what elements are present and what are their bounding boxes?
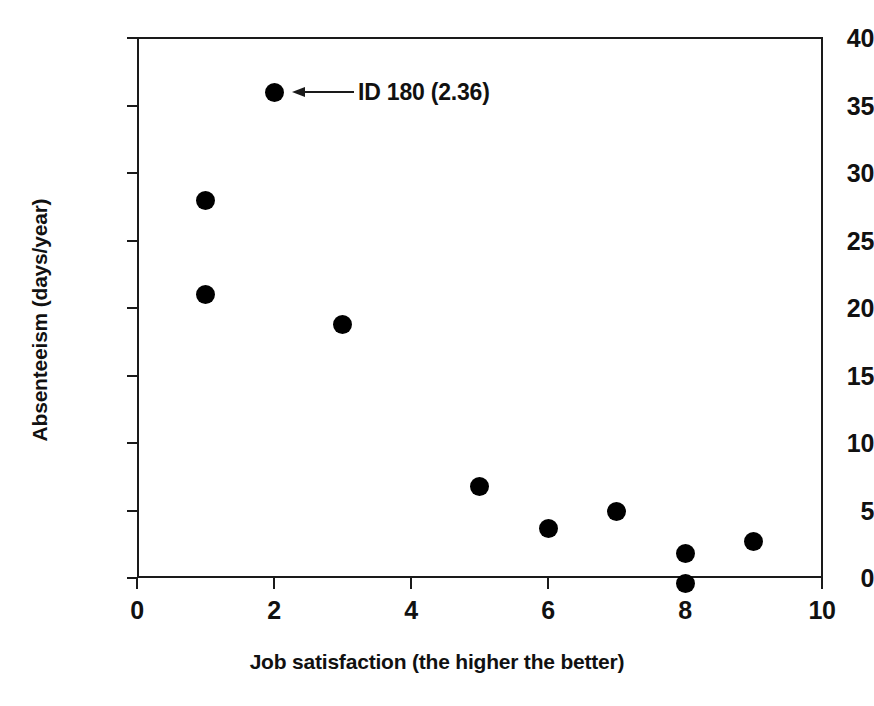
x-tick-mark bbox=[273, 578, 275, 589]
x-tick-mark bbox=[821, 578, 823, 589]
x-tick-label: 4 bbox=[371, 596, 451, 625]
scatter-chart-figure: 0510152025303540 0246810 ID 180 (2.36) J… bbox=[0, 0, 874, 706]
y-tick-label: 40 bbox=[764, 24, 874, 53]
y-tick-label: 30 bbox=[764, 159, 874, 188]
data-point bbox=[196, 191, 215, 210]
annotation-label: ID 180 (2.36) bbox=[358, 79, 490, 106]
x-tick-label: 8 bbox=[645, 596, 725, 625]
y-axis-title: Absenteeism (days/year) bbox=[28, 110, 52, 530]
x-tick-label: 6 bbox=[508, 596, 588, 625]
y-tick-label: 20 bbox=[764, 294, 874, 323]
y-tick-label: 35 bbox=[764, 91, 874, 120]
data-point bbox=[196, 285, 215, 304]
y-tick-mark bbox=[127, 172, 138, 174]
x-tick-mark bbox=[410, 578, 412, 589]
y-tick-label: 15 bbox=[764, 361, 874, 390]
data-point bbox=[333, 315, 352, 334]
data-point bbox=[470, 477, 489, 496]
y-tick-mark bbox=[127, 240, 138, 242]
x-tick-label: 0 bbox=[97, 596, 177, 625]
y-tick-mark bbox=[127, 105, 138, 107]
y-tick-mark bbox=[127, 375, 138, 377]
y-tick-mark bbox=[127, 442, 138, 444]
data-point bbox=[676, 574, 695, 593]
y-tick-label: 25 bbox=[764, 226, 874, 255]
data-point bbox=[744, 532, 763, 551]
y-tick-label: 10 bbox=[764, 429, 874, 458]
y-tick-mark bbox=[127, 510, 138, 512]
y-tick-label: 5 bbox=[764, 496, 874, 525]
plot-top-border bbox=[137, 37, 823, 39]
y-tick-label: 0 bbox=[764, 564, 874, 593]
data-point bbox=[676, 544, 695, 563]
x-tick-mark bbox=[136, 578, 138, 589]
x-tick-label: 10 bbox=[782, 596, 862, 625]
y-tick-mark bbox=[127, 307, 138, 309]
x-axis-title: Job satisfaction (the higher the better) bbox=[0, 650, 874, 674]
annotation-arrow-icon bbox=[292, 80, 354, 104]
y-tick-mark bbox=[127, 37, 138, 39]
plot-area bbox=[137, 38, 822, 578]
data-point bbox=[539, 519, 558, 538]
x-tick-label: 2 bbox=[234, 596, 314, 625]
data-point bbox=[265, 83, 284, 102]
x-tick-mark bbox=[547, 578, 549, 589]
